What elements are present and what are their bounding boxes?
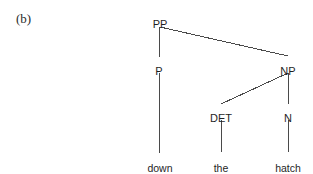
syntax-tree-figure: (b) PPPNPDETNdownthehatch — [0, 0, 313, 174]
tree-node-det: DET — [210, 112, 232, 124]
tree-node-n: N — [284, 112, 292, 124]
tree-edge-np-det — [221, 73, 288, 104]
tree-edge-group — [159, 27, 288, 153]
tree-node-np: NP — [280, 65, 295, 77]
tree-terminal-down: down — [147, 162, 172, 174]
tree-terminal-hatch: hatch — [275, 162, 301, 174]
tree-terminal-the: the — [214, 162, 229, 174]
tree-edge-pp-np — [160, 27, 288, 56]
tree-node-p: P — [155, 65, 162, 77]
tree-node-pp: PP — [153, 18, 168, 30]
